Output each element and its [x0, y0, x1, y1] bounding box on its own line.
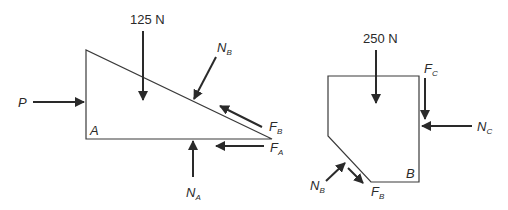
- corner-label-b: B: [406, 166, 415, 181]
- nc-force-label: NC: [477, 119, 492, 136]
- nb-force-block: NB: [310, 163, 345, 195]
- nb-force-wedge: NB: [194, 40, 232, 99]
- fa-force: FA: [216, 140, 283, 157]
- nb-force-wedge-label: NB: [217, 40, 232, 57]
- nb-force-block-label: NB: [310, 178, 325, 195]
- load-125n-force: 125 N: [130, 12, 165, 100]
- fb-force-block: FB: [348, 168, 385, 201]
- free-body-diagram: A 125 N P NB FB FA: [0, 0, 508, 210]
- nc-force: NC: [422, 119, 492, 136]
- fb-force-block-label: FB: [371, 184, 385, 201]
- load-125n-label: 125 N: [130, 12, 165, 27]
- load-250n-label: 250 N: [363, 31, 398, 46]
- block-body: B 250 N FC NC NB: [310, 31, 492, 201]
- load-250n-force: 250 N: [363, 31, 398, 103]
- p-force: P: [18, 95, 84, 110]
- na-force-label: NA: [186, 185, 201, 202]
- arrow-down-left-icon: [194, 57, 216, 99]
- fb-force-wedge-label: FB: [269, 119, 283, 136]
- arrow-up-right-icon: [326, 163, 345, 181]
- na-force: NA: [186, 141, 201, 202]
- fc-force: FC: [424, 61, 438, 119]
- fb-force-wedge: FB: [220, 106, 283, 136]
- wedge-body: A 125 N P NB FB FA: [18, 12, 283, 202]
- fa-force-label: FA: [270, 140, 283, 157]
- fc-force-label: FC: [424, 61, 438, 78]
- p-force-label: P: [18, 95, 27, 110]
- wedge-outline: [86, 50, 272, 139]
- corner-label-a: A: [89, 123, 99, 138]
